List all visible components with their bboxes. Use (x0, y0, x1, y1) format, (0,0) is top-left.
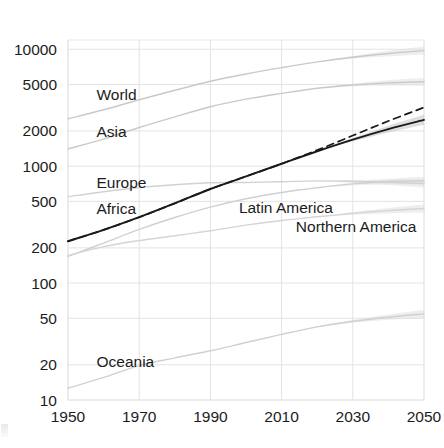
y-tick-label-100: 100 (31, 275, 57, 292)
series-label-latin-america: Latin America (239, 199, 333, 216)
chart-canvas: 10205010020050010002000500010000 1950197… (0, 0, 444, 448)
series-label-africa: Africa (96, 200, 136, 217)
x-tick-label-1970: 1970 (122, 408, 157, 425)
series-label-oceania: Oceania (96, 353, 154, 370)
series-line-oceania (68, 314, 424, 388)
corner-artifact (1, 424, 8, 437)
y-tick-label-2000: 2000 (23, 122, 58, 139)
series-label-world: World (96, 86, 136, 103)
y-tick-label-10000: 10000 (14, 41, 57, 58)
projection-uncertainty-bands (317, 47, 424, 327)
population-log-chart: 10205010020050010002000500010000 1950197… (0, 0, 444, 448)
y-tick-label-10: 10 (40, 392, 58, 409)
series-label-northern-america: Northern America (296, 218, 417, 235)
x-tick-label-1990: 1990 (193, 408, 228, 425)
x-tick-label-1950: 1950 (51, 408, 86, 425)
y-tick-label-1000: 1000 (23, 158, 58, 175)
x-tick-label-2030: 2030 (336, 408, 371, 425)
y-tick-label-200: 200 (31, 239, 57, 256)
y-tick-label-500: 500 (31, 193, 57, 210)
y-axis-tick-labels: 10205010020050010002000500010000 (14, 41, 57, 409)
y-tick-label-50: 50 (40, 310, 58, 327)
series-label-asia: Asia (96, 123, 127, 140)
x-tick-label-2050: 2050 (407, 408, 442, 425)
y-tick-label-20: 20 (40, 356, 58, 373)
x-tick-label-2010: 2010 (264, 408, 299, 425)
y-tick-label-5000: 5000 (23, 76, 58, 93)
x-axis-tick-labels: 195019701990201020302050 (51, 408, 442, 425)
series-label-europe: Europe (96, 174, 146, 191)
